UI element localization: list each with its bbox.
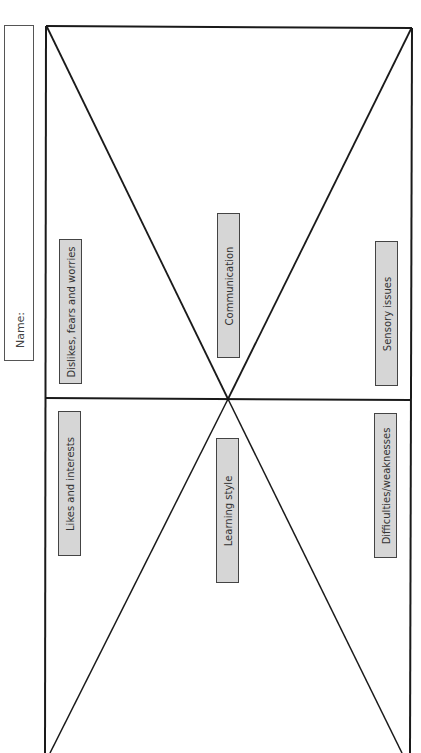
section-label-text: Learning style	[222, 475, 233, 546]
frame-right	[410, 28, 412, 753]
section-label-communication: Communication	[217, 213, 240, 358]
section-label-likes: Likes and interests	[58, 411, 81, 556]
section-label-text: Likes and interests	[64, 437, 75, 531]
section-label-learning: Learning style	[216, 438, 239, 583]
section-label-text: Dislikes, fears and worries	[65, 246, 76, 377]
section-label-dislikes: Dislikes, fears and worries	[59, 239, 82, 384]
frame-left	[45, 26, 46, 753]
section-label-text: Communication	[223, 246, 234, 325]
section-label-text: Sensory issues	[381, 276, 392, 350]
section-label-difficulties: Difficulties/weaknesses	[374, 413, 397, 558]
frame-top	[46, 26, 412, 28]
section-label-sensory: Sensory issues	[375, 241, 398, 386]
section-label-text: Difficulties/weaknesses	[380, 427, 391, 544]
